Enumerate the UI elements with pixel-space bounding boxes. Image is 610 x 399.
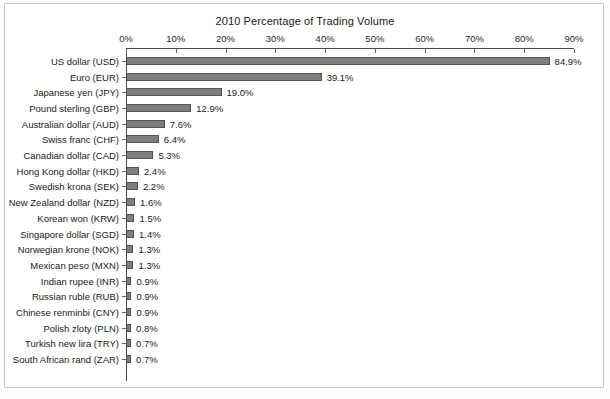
y-tick-mark [122, 265, 126, 266]
x-tick-label: 80% [515, 33, 534, 44]
bar [127, 230, 134, 238]
bar-value-label: 1.5% [134, 212, 161, 223]
category-label: Swiss franc (CHF) [42, 134, 119, 145]
chart-page: 2010 Percentage of Trading Volume 0%10%2… [0, 0, 610, 399]
bar [127, 120, 165, 128]
category-label: Hong Kong dollar (HKD) [17, 165, 119, 176]
bar-value-label: 0.7% [131, 354, 158, 365]
bar-value-label: 84.9% [550, 55, 582, 66]
category-label: Turkish new lira (TRY) [25, 338, 119, 349]
y-tick-mark [122, 359, 126, 360]
bar-row: Hong Kong dollar (HKD)2.4% [126, 163, 574, 179]
bar [127, 151, 153, 159]
x-tick-label: 40% [316, 33, 335, 44]
category-label: Canadian dollar (CAD) [23, 150, 119, 161]
category-label: US dollar (USD) [51, 55, 119, 66]
y-tick-mark [122, 202, 126, 203]
bar-row: Singapore dollar (SGD)1.4% [126, 226, 574, 242]
x-axis-line [126, 48, 574, 49]
bar-value-label: 1.3% [133, 259, 160, 270]
x-tick-label: 10% [166, 33, 185, 44]
bar [127, 198, 135, 206]
bar [127, 167, 139, 175]
bar-value-label: 19.0% [222, 87, 254, 98]
bar-value-label: 2.2% [138, 181, 165, 192]
y-tick-mark [122, 343, 126, 344]
y-tick-mark [122, 108, 126, 109]
category-label: Australian dollar (AUD) [22, 118, 119, 129]
bar-row: Indian rupee (INR)0.9% [126, 273, 574, 289]
x-tick-label: 20% [216, 33, 235, 44]
bar [127, 182, 138, 190]
bar-row: Japanese yen (JPY)19.0% [126, 84, 574, 100]
bar-row: Turkish new lira (TRY)0.7% [126, 336, 574, 352]
y-tick-mark [122, 139, 126, 140]
x-tick-label: 60% [415, 33, 434, 44]
bar-row: Pound sterling (GBP)12.9% [126, 100, 574, 116]
bar-row: Australian dollar (AUD)7.6% [126, 116, 574, 132]
x-tick-mark [574, 49, 575, 53]
category-label: Pound sterling (GBP) [29, 102, 119, 113]
x-tick-label: 90% [564, 33, 583, 44]
y-tick-mark [122, 92, 126, 93]
y-tick-mark [122, 77, 126, 78]
bar-value-label: 0.9% [131, 291, 158, 302]
y-tick-mark [122, 171, 126, 172]
y-tick-mark [122, 124, 126, 125]
bar-value-label: 0.8% [131, 322, 158, 333]
bar-row: New Zealand dollar (NZD)1.6% [126, 194, 574, 210]
category-label: Russian ruble (RUB) [32, 291, 119, 302]
y-tick-mark [122, 61, 126, 62]
category-label: Euro (EUR) [70, 71, 119, 82]
bar-value-label: 0.9% [131, 307, 158, 318]
y-tick-mark [122, 186, 126, 187]
bar [127, 104, 191, 112]
bar-value-label: 6.4% [159, 134, 186, 145]
x-tick-label: 0% [119, 33, 133, 44]
bar-row: Chinese renminbi (CNY)0.9% [126, 304, 574, 320]
bar-value-label: 2.4% [139, 165, 166, 176]
y-tick-mark [122, 218, 126, 219]
x-tick-label: 50% [365, 33, 384, 44]
chart-frame: 2010 Percentage of Trading Volume 0%10%2… [4, 3, 604, 388]
bar-value-label: 0.9% [131, 275, 158, 286]
category-label: Indian rupee (INR) [41, 275, 119, 286]
bar [127, 214, 134, 222]
bar-value-label: 0.7% [131, 338, 158, 349]
bar-value-label: 7.6% [165, 118, 192, 129]
bar-row: South African rand (ZAR)0.7% [126, 351, 574, 367]
plot-area: 0%10%20%30%40%50%60%70%80%90% US dollar … [126, 48, 574, 381]
x-tick-label: 30% [266, 33, 285, 44]
y-tick-mark [122, 249, 126, 250]
bar-row: Canadian dollar (CAD)5.3% [126, 147, 574, 163]
y-tick-mark [122, 296, 126, 297]
category-label: South African rand (ZAR) [13, 354, 119, 365]
bar-row: Swiss franc (CHF)6.4% [126, 132, 574, 148]
bar-row: Euro (EUR)39.1% [126, 69, 574, 85]
bar-row: Polish zloty (PLN)0.8% [126, 320, 574, 336]
bar-value-label: 39.1% [322, 71, 354, 82]
bar-value-label: 1.3% [133, 244, 160, 255]
bar-row: US dollar (USD)84.9% [126, 53, 574, 69]
page-title: 2010 Percentage of Trading Volume [5, 15, 605, 27]
category-label: Korean won (KRW) [37, 212, 119, 223]
bar-row: Mexican peso (MXN)1.3% [126, 257, 574, 273]
category-label: New Zealand dollar (NZD) [9, 197, 119, 208]
category-label: Polish zloty (PLN) [44, 322, 120, 333]
bar-value-label: 5.3% [153, 150, 180, 161]
bar-value-label: 1.4% [134, 228, 161, 239]
category-label: Japanese yen (JPY) [33, 87, 119, 98]
bar-value-label: 1.6% [135, 197, 162, 208]
y-tick-mark [122, 234, 126, 235]
category-label: Chinese renminbi (CNY) [16, 307, 119, 318]
category-label: Swedish krona (SEK) [29, 181, 119, 192]
bar [127, 135, 159, 143]
bar-row: Norwegian krone (NOK)1.3% [126, 241, 574, 257]
y-tick-mark [122, 155, 126, 156]
bar [127, 88, 222, 96]
category-label: Singapore dollar (SGD) [20, 228, 119, 239]
x-tick-label: 70% [465, 33, 484, 44]
y-tick-mark [122, 312, 126, 313]
bar [127, 57, 550, 65]
bar-row: Korean won (KRW)1.5% [126, 210, 574, 226]
